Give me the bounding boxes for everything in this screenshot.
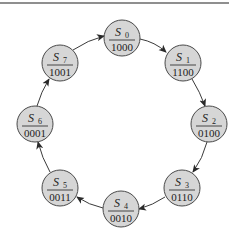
state-node-s7: S 7 1001 [42,45,78,81]
state-name: S [28,111,34,125]
edge-s1-s2 [192,79,205,106]
state-code: 1000 [111,41,134,53]
state-node-s3: S 3 0110 [164,170,200,206]
state-name: S [53,50,59,64]
state-code: 0001 [24,127,46,139]
state-name: S [202,111,208,125]
edge-s5-s6 [38,142,50,172]
edge-s6-s7 [37,79,49,106]
state-node-s4: S 4 0010 [103,191,139,227]
state-subscript: 1 [186,56,190,65]
edge-s0-s1 [140,39,166,52]
state-name: S [176,50,182,64]
state-diagram: S 0 1000 S 1 1100 S 2 0100 S 3 0110 S 4 … [0,0,239,247]
state-code: 1100 [172,66,194,78]
state-code: 0100 [198,127,221,139]
edge-s2-s3 [193,142,207,172]
state-node-s5: S 5 0011 [42,170,78,206]
state-subscript: 0 [125,31,129,40]
state-code: 0010 [110,212,133,224]
state-name: S [114,196,120,210]
state-subscript: 7 [63,56,67,65]
state-node-s0: S 0 1000 [104,20,140,56]
state-code: 0110 [171,191,193,203]
state-subscript: 3 [185,181,189,190]
state-node-s2: S 2 0100 [191,106,227,142]
state-code: 0011 [49,191,71,203]
state-code: 1001 [49,66,71,78]
state-name: S [175,175,181,189]
state-node-s6: S 6 0001 [17,106,53,142]
edge-s4-s5 [77,197,103,208]
edge-s7-s0 [73,36,104,50]
edge-s3-s4 [139,197,165,209]
state-node-s1: S 1 1100 [165,45,201,81]
state-name: S [115,25,121,39]
state-subscript: 5 [63,181,67,190]
state-subscript: 2 [212,117,216,126]
state-name: S [53,175,59,189]
state-subscript: 4 [124,202,128,211]
state-subscript: 6 [38,117,42,126]
